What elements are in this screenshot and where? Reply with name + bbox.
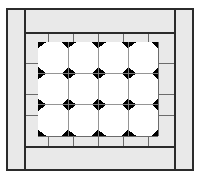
octagon-patch — [98, 42, 128, 73]
octagon-patch — [38, 73, 68, 104]
octagon-patch — [38, 105, 68, 136]
octagon-patch — [68, 105, 98, 136]
quilt-svg — [0, 0, 200, 178]
octagon-patch — [128, 73, 158, 104]
octagon-patch — [128, 105, 158, 136]
octagon-patch — [38, 42, 68, 73]
octagon-patch — [68, 42, 98, 73]
octagon-patch — [68, 73, 98, 104]
octagon-patch — [98, 73, 128, 104]
quilt-block-diagram — [0, 0, 200, 178]
octagon-patch — [98, 105, 128, 136]
octagon-patch — [128, 42, 158, 73]
center-patchwork-panel — [38, 42, 158, 136]
